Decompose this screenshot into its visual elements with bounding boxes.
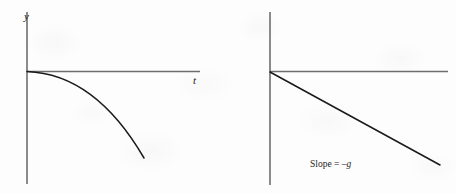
panel-position-vs-time: y t: [0, 0, 228, 194]
slope-annotation-prefix: Slope = –: [310, 159, 347, 169]
slope-annotation-symbol: g: [347, 159, 352, 169]
position-curve: [27, 72, 144, 159]
y-axis-label: y: [24, 11, 29, 22]
t-axis-label-left: t: [193, 75, 196, 86]
figure-canvas: y t υ t Slope = –g: [0, 0, 456, 194]
position-graph-svg: [0, 0, 228, 194]
velocity-line: [270, 72, 440, 165]
slope-annotation: Slope = –g: [310, 160, 351, 170]
